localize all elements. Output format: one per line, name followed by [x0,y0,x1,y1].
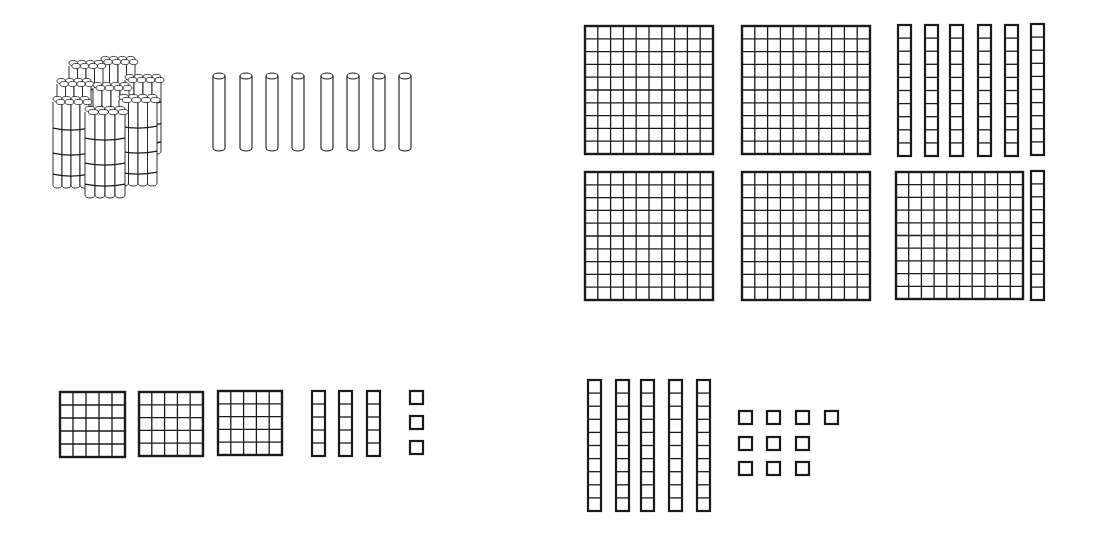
unit-cube [410,391,423,404]
rod-block [588,380,601,511]
unit-cube [410,441,423,454]
stick [213,73,225,151]
panel-bundles-and-sticks [53,56,411,198]
rod-block [367,391,380,456]
flat-block [742,172,870,300]
flat-block [896,172,1023,299]
flat-block [218,391,282,455]
panel-base5-blocks [60,391,423,457]
stick [373,73,385,151]
unit-cube [796,462,809,475]
flat-block [60,392,125,457]
unit-cube [767,462,780,475]
stick-bundle [85,106,128,198]
unit-cube [739,462,752,475]
stick [240,73,252,151]
unit-cube [796,411,809,424]
rod-block [312,391,325,456]
flat-block [139,392,203,456]
rod-block [950,25,963,156]
unit-cube [410,416,423,429]
unit-cube [796,437,809,450]
rod-block [1031,24,1044,155]
base-blocks-diagram [0,0,1096,536]
rod-block [697,380,710,511]
rod-block [978,25,991,156]
rod-block [616,380,629,511]
stick [347,73,359,151]
flat-block [742,26,870,154]
flat-block [585,172,713,300]
rod-block [1031,171,1044,300]
panel-base10-tens-units [588,380,838,511]
rod-block [898,25,911,156]
panel-base10-hundreds-tens [585,24,1044,300]
unit-cube [739,437,752,450]
flat-block [585,26,713,154]
bundle-of-sticks [53,56,164,198]
rod-block [669,380,682,511]
rod-block [339,391,352,456]
stick [292,73,304,151]
stick [321,73,333,151]
stick [399,73,411,151]
unit-cube [739,411,752,424]
stick [266,73,278,151]
rod-block [925,25,938,156]
unit-cube [767,437,780,450]
rod-block [1005,25,1018,156]
unit-cube [825,411,838,424]
unit-cube [767,411,780,424]
rod-block [641,380,654,511]
